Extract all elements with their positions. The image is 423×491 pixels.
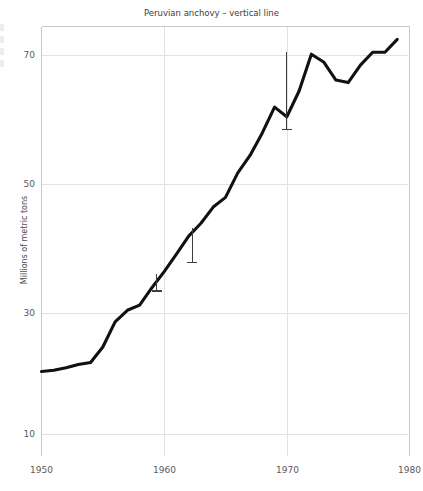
y-tick-label-10: 10 [24,429,36,439]
chart-container: Peruvian anchovy – vertical line 70 50 3… [0,0,423,491]
y-tick-label-70: 70 [24,50,36,60]
y-tick-label-50: 50 [24,179,36,189]
x-tick-label-1960: 1960 [153,465,176,475]
x-tick-label-1970: 1970 [276,465,299,475]
anchovy-line-chart: Peruvian anchovy – vertical line 70 50 3… [0,0,423,491]
chart-title: Peruvian anchovy – vertical line [144,8,279,18]
chart-background [0,0,423,491]
x-tick-label-1980: 1980 [398,465,421,475]
x-tick-label-1950: 1950 [30,465,53,475]
y-tick-label-30: 30 [24,308,36,318]
y-axis-title: Millions of metric tons [20,196,29,284]
